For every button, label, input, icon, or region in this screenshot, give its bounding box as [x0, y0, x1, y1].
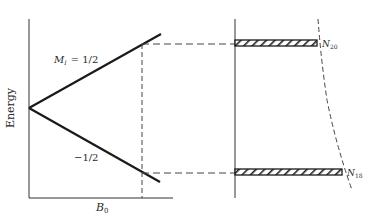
lower-population-bar	[235, 169, 342, 175]
upper-energy-line	[29, 34, 161, 108]
lower-population-label: N18	[346, 168, 363, 179]
lower-level-label: −1/2	[74, 152, 98, 163]
upper-population-bar	[235, 40, 317, 46]
x-axis-label: B0	[95, 201, 109, 215]
energy-level-diagram: Energy B0 MI= 1/2 −1/2 N20 N18	[0, 0, 368, 216]
upper-level-label: MI= 1/2	[53, 54, 98, 66]
y-axis-label: Energy	[4, 87, 17, 128]
lower-energy-line	[29, 108, 160, 182]
upper-population-label: N20	[321, 39, 338, 50]
left-axes	[29, 19, 173, 198]
